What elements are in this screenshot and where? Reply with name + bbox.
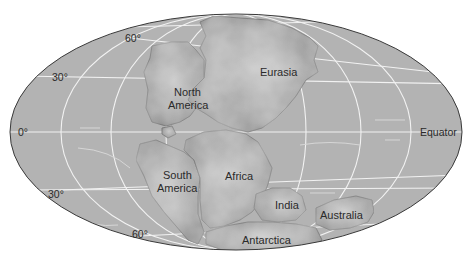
continent-label-australia: Australia <box>320 209 364 221</box>
latitude-label-30n: 30° <box>52 71 68 83</box>
latitude-label-60n: 60° <box>125 32 141 44</box>
continent-label-south-america-line1: South <box>163 169 192 181</box>
continent-label-north-america-line1: North <box>174 86 201 98</box>
continent-label-north-america-line2: America <box>168 99 209 111</box>
continent-label-south-america-line2: America <box>157 182 198 194</box>
continent-label-eurasia: Eurasia <box>260 66 298 78</box>
latitude-label-30s: 30° <box>48 188 64 200</box>
continent-label-antarctica: Antarctica <box>242 234 292 246</box>
continent-label-africa: Africa <box>225 170 254 182</box>
continent-label-india: India <box>275 199 300 211</box>
pangaea-map: 60° 30° 0° 30° 60° Equator North America… <box>0 0 470 264</box>
equator-label: Equator <box>420 126 457 138</box>
latitude-label-0: 0° <box>18 126 28 138</box>
latitude-label-60s: 60° <box>132 228 148 240</box>
